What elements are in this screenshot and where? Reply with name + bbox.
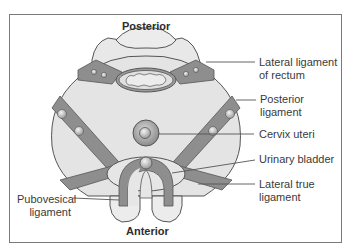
orientation-bottom-label: Anterior xyxy=(126,225,169,237)
label-line: Lateral true xyxy=(259,178,315,191)
label-line: ligament xyxy=(260,106,304,119)
label-lateral-ligament-of-rectum: Lateral ligament of rectum xyxy=(259,56,337,82)
label-posterior-ligament: Posterior ligament xyxy=(260,93,304,119)
label-line: ligament xyxy=(259,191,315,204)
label-lateral-true-ligament: Lateral true ligament xyxy=(259,178,315,204)
cervix-uteri-shape xyxy=(133,120,159,146)
label-line: Lateral ligament xyxy=(259,56,337,69)
label-line: Cervix uteri xyxy=(259,128,315,141)
label-line: of rectum xyxy=(259,69,337,82)
label-line: Pubovesical xyxy=(17,193,71,206)
label-line: Posterior xyxy=(260,93,304,106)
orientation-top-label: Posterior xyxy=(122,20,170,32)
label-pubovesical-ligament: Pubovesical ligament xyxy=(17,193,71,219)
label-line: Urinary bladder xyxy=(259,153,334,166)
label-cervix-uteri: Cervix uteri xyxy=(259,128,315,141)
label-urinary-bladder: Urinary bladder xyxy=(259,153,334,166)
label-line: ligament xyxy=(17,206,71,219)
rectum-shape xyxy=(116,68,176,92)
